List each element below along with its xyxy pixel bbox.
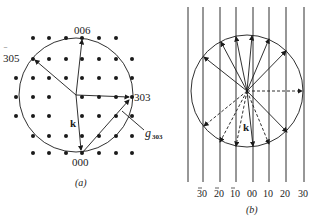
label-000: 000 <box>72 156 89 168</box>
vector-to-006 <box>76 40 82 95</box>
label-g-subscript: 303 <box>152 133 163 141</box>
svg-text:20: 20 <box>280 188 290 199</box>
svg-text:10: 10 <box>230 188 240 199</box>
svg-text:30: 30 <box>298 188 308 199</box>
svg-text:30: 30 <box>197 188 207 199</box>
caption-b: (b) <box>246 204 258 216</box>
svg-text:00: 00 <box>247 188 257 199</box>
label-006: 006 <box>74 24 91 36</box>
g303-leader <box>122 111 144 130</box>
panel-b: k 30 20 10 00 10 20 30 (b) <box>188 7 308 216</box>
diffraction-figure: 006 ‾ 305 303 000 k g 303 (a) <box>0 0 324 218</box>
label-k: k <box>70 117 77 129</box>
caption-a: (a) <box>75 177 87 189</box>
g303-vector <box>82 100 129 153</box>
panel-a: 006 ‾ 305 303 000 k g 303 (a) <box>3 24 163 189</box>
label-g: g <box>145 126 151 140</box>
label-303: 303 <box>134 91 151 103</box>
svg-text:20: 20 <box>214 188 224 199</box>
vector-to-305 <box>35 60 76 95</box>
svg-text:10: 10 <box>263 188 273 199</box>
reciprocal-lattice-rods <box>188 7 304 182</box>
rod-labels: 30 20 10 00 10 20 30 <box>197 188 308 199</box>
label-305: 305 <box>3 52 20 64</box>
label-k-b: k <box>243 121 250 133</box>
k-vector <box>76 95 81 150</box>
